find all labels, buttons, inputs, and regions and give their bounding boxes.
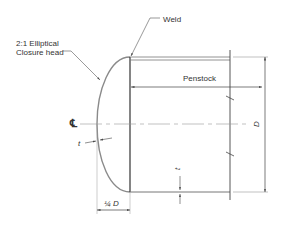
elliptical-head [97,57,130,192]
centerline-symbol: ℄ [70,118,77,128]
head-label-line2: Closure head [16,48,64,58]
diameter-label: D [252,121,262,127]
shell-thickness-label: t [173,168,183,170]
penstock-closure-head-diagram [0,0,285,225]
penstock-label: Penstock [183,74,216,84]
weld-leader [131,18,160,56]
head-depth-label: ¼ D [104,199,119,209]
head-thickness-label: t [78,139,80,149]
head-leader [63,51,100,80]
weld-label: Weld [163,15,181,25]
